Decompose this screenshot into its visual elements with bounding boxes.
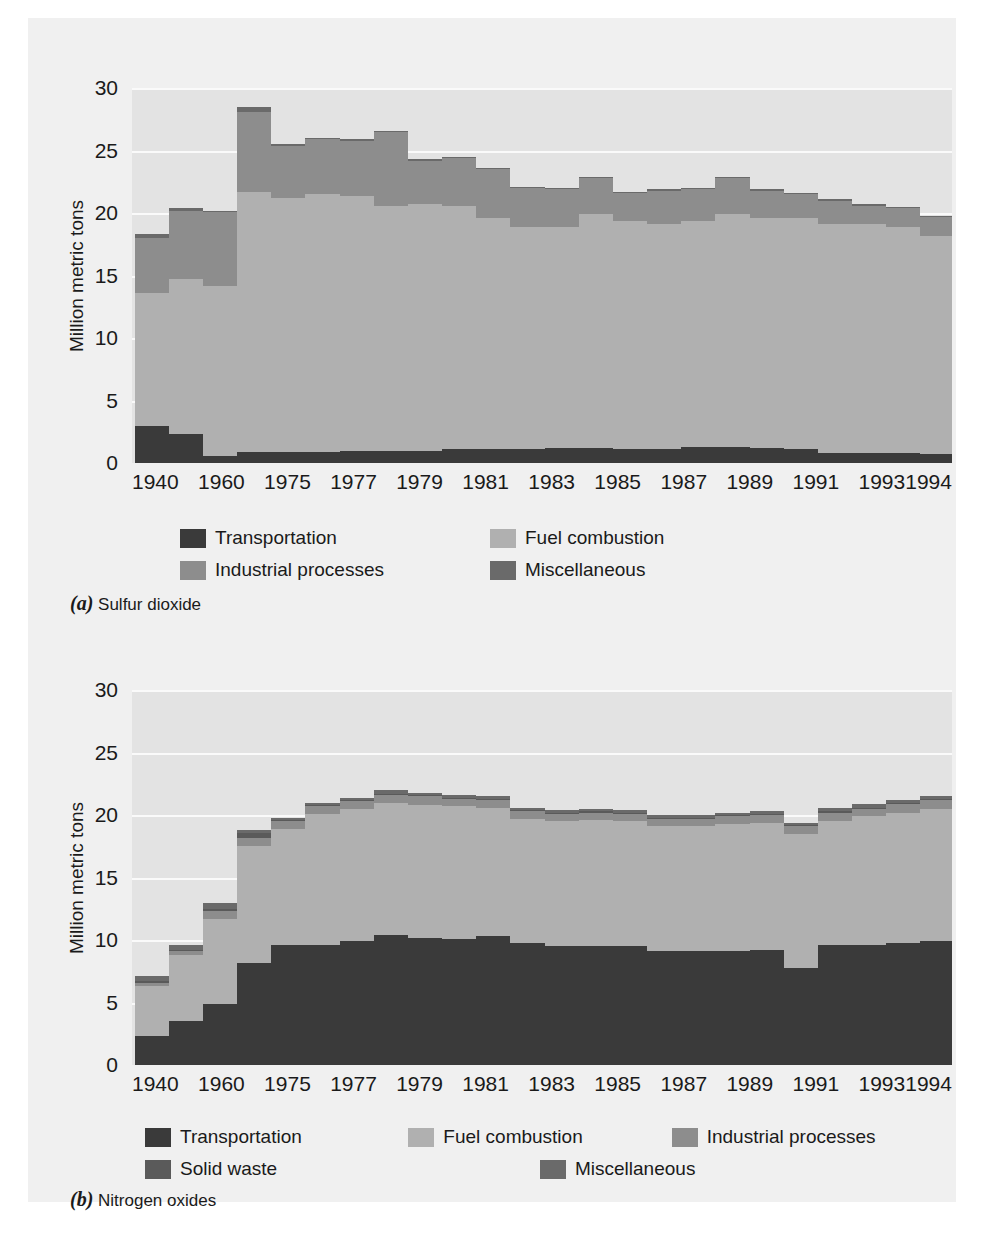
x-tick-blank xyxy=(311,1072,330,1096)
bar-segment-fuel-combustion xyxy=(408,805,442,938)
bar-segment-fuel-combustion xyxy=(647,224,681,449)
x-tick-label: 1994 xyxy=(905,470,952,494)
x-tick-blank xyxy=(377,470,396,494)
bar-segment-transportation xyxy=(579,946,613,1065)
bar-segment-industrial-processes xyxy=(852,809,886,817)
caption-a-text: Sulfur dioxide xyxy=(98,595,201,614)
legend-item-industrial-processes[interactable]: Industrial processes xyxy=(180,559,490,581)
bar-segment-fuel-combustion xyxy=(374,803,408,936)
bar-stack xyxy=(271,144,305,463)
bar-1993 xyxy=(884,690,918,1065)
bar-segment-industrial-processes xyxy=(681,819,715,827)
bar-stack xyxy=(750,189,784,463)
caption-b-letter: (b) xyxy=(70,1188,93,1210)
bar-1989 xyxy=(747,690,781,1065)
bar-segment-transportation xyxy=(203,1004,237,1065)
x-tick-label: 1989 xyxy=(726,470,773,494)
legend-item-fuel-combustion[interactable]: Fuel combustion xyxy=(408,1126,671,1148)
bar-stack xyxy=(920,216,952,464)
legend-item-industrial-processes[interactable]: Industrial processes xyxy=(672,1126,935,1148)
bar-segment-transportation xyxy=(340,941,374,1065)
bar-stack xyxy=(340,139,374,463)
bar-segment-fuel-combustion xyxy=(681,221,715,447)
x-tick-label: 1987 xyxy=(660,1072,707,1096)
caption-a-letter: (a) xyxy=(70,592,93,614)
bar-segment-transportation xyxy=(750,950,784,1065)
legend-row: TransportationFuel combustionIndustrial … xyxy=(145,1126,935,1148)
bar-segment-fuel-combustion xyxy=(613,821,647,946)
y-tick-label: 15 xyxy=(78,866,118,890)
bar-stack xyxy=(442,795,476,1065)
bar-segment-industrial-processes xyxy=(886,804,920,813)
bar-stack xyxy=(442,157,476,463)
bar-segment-transportation xyxy=(545,448,579,463)
legend-item-transportation[interactable]: Transportation xyxy=(145,1126,408,1148)
bar-segment-transportation xyxy=(135,426,169,464)
y-tick-label: 0 xyxy=(78,1053,118,1077)
bar-segment-industrial-processes xyxy=(818,201,852,225)
panel-b-nitrogen-oxides: Million metric tons 051015202530 1940 19… xyxy=(0,636,998,1196)
legend-item-fuel-combustion[interactable]: Fuel combustion xyxy=(490,527,800,549)
bar-segment-industrial-processes xyxy=(784,826,818,834)
legend-swatch-icon xyxy=(180,529,206,548)
x-tick-label: 1977 xyxy=(330,1072,377,1096)
bar-segment-fuel-combustion xyxy=(784,218,818,449)
legend-item-solid-waste[interactable]: Solid waste xyxy=(145,1158,540,1180)
legend-label: Fuel combustion xyxy=(443,1126,582,1148)
bar-segment-industrial-processes xyxy=(476,800,510,808)
bar-stack xyxy=(613,810,647,1065)
bar-1970 xyxy=(235,690,269,1065)
x-tick-blank xyxy=(509,470,528,494)
bar-1960 xyxy=(200,690,234,1065)
bar-segment-industrial-processes xyxy=(169,211,203,280)
x-axis-ticks-a: 1940 1960 1975 1977 1979 1981 1983 1985 … xyxy=(132,470,952,494)
bar-segment-transportation xyxy=(647,449,681,463)
legend-label: Miscellaneous xyxy=(525,559,645,581)
bar-1987 xyxy=(679,690,713,1065)
bar-segment-transportation xyxy=(203,456,237,464)
legend-label: Fuel combustion xyxy=(525,527,664,549)
bar-segment-transportation xyxy=(784,968,818,1066)
x-tick-label: 1981 xyxy=(462,1072,509,1096)
y-tick-label: 5 xyxy=(78,991,118,1015)
caption-b: (b) Nitrogen oxides xyxy=(70,1188,216,1211)
legend-row: TransportationFuel combustion xyxy=(180,527,800,549)
bar-segment-fuel-combustion xyxy=(271,198,305,452)
bar-stack xyxy=(305,803,339,1066)
bar-stack xyxy=(271,818,305,1066)
bar-1988 xyxy=(713,88,747,463)
x-tick-label: 1975 xyxy=(264,470,311,494)
bar-1979 xyxy=(405,690,439,1065)
legend-item-transportation[interactable]: Transportation xyxy=(180,527,490,549)
bar-stack xyxy=(647,189,681,463)
bar-segment-fuel-combustion xyxy=(340,809,374,942)
y-tick-label: 5 xyxy=(78,389,118,413)
legend-label: Transportation xyxy=(215,527,337,549)
bar-segment-transportation xyxy=(237,452,271,463)
bar-segment-industrial-processes xyxy=(305,139,339,194)
bar-segment-industrial-processes xyxy=(613,814,647,822)
x-tick-blank xyxy=(707,1072,726,1096)
bar-segment-industrial-processes xyxy=(510,188,544,227)
bar-segment-industrial-processes xyxy=(203,911,237,919)
legend-b: TransportationFuel combustionIndustrial … xyxy=(145,1126,935,1190)
bar-stack xyxy=(818,808,852,1066)
bar-segment-fuel-combustion xyxy=(715,824,749,952)
bar-1992 xyxy=(850,88,884,463)
bar-segment-industrial-processes xyxy=(135,238,169,293)
bar-segment-fuel-combustion xyxy=(545,227,579,448)
x-tick-label: 1979 xyxy=(396,470,443,494)
x-tick-label: 1979 xyxy=(396,1072,443,1096)
bar-stack xyxy=(715,177,749,463)
legend-item-miscellaneous[interactable]: Miscellaneous xyxy=(490,559,800,581)
figure-page: Million metric tons 051015202530 1940 19… xyxy=(0,0,998,1257)
legend-item-miscellaneous[interactable]: Miscellaneous xyxy=(540,1158,935,1180)
bar-1984 xyxy=(576,690,610,1065)
x-tick-blank xyxy=(641,1072,660,1096)
bar-stack xyxy=(510,808,544,1066)
bar-1993 xyxy=(884,88,918,463)
bar-segment-industrial-processes xyxy=(920,217,952,236)
bar-segment-fuel-combustion xyxy=(750,823,784,951)
x-tick-blank xyxy=(575,470,594,494)
bar-segment-fuel-combustion xyxy=(920,809,952,942)
